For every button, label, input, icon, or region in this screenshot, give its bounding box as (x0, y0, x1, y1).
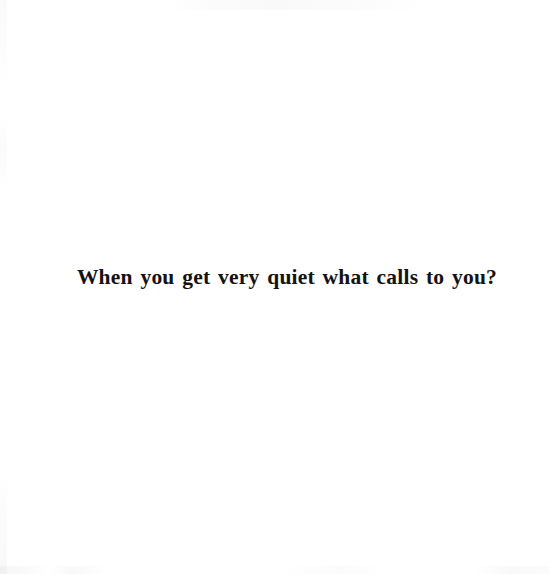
book-page: When you get very quiet what calls to yo… (0, 0, 550, 574)
page-edge-artifact-bottom (0, 566, 550, 574)
page-body-line: When you get very quiet what calls to yo… (53, 262, 497, 292)
page-edge-artifact-top (0, 0, 550, 10)
page-text-block: When you get very quiet what calls to yo… (0, 262, 550, 292)
